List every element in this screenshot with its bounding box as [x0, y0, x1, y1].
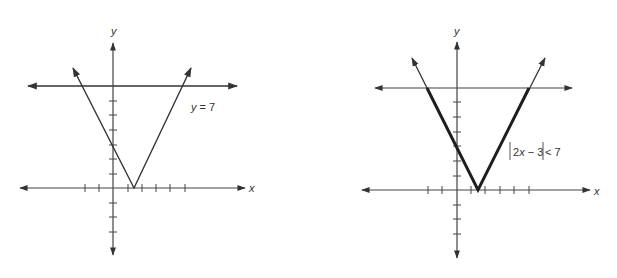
left-graph: y y = 7 x [20, 25, 255, 255]
left-equation-label: y = 7 [190, 101, 215, 113]
left-y-axis-label: y [110, 25, 118, 37]
right-equation-label: 2x − 3 < 7 [510, 142, 561, 160]
right-y-axis-label: y [453, 25, 461, 37]
right-graph: y 2x − 3 < 7 x [362, 25, 600, 258]
right-x-axis-label: x [593, 185, 600, 197]
svg-text:2x − 3: 2x − 3 [513, 146, 543, 158]
svg-text:< 7: < 7 [545, 146, 561, 158]
left-x-axis-label: x [248, 182, 255, 194]
figure-canvas: y y = 7 x [0, 0, 617, 278]
right-absolute-value-graph [412, 58, 545, 190]
right-solution-highlight [427, 88, 529, 190]
